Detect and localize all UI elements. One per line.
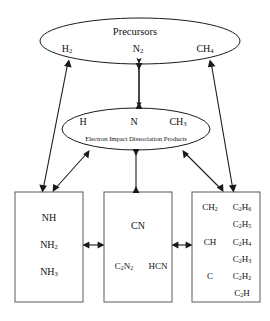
hydrocarbon-species-c2h: C2H (224, 289, 260, 299)
hydrocarbon-species-c2h2: C2H2 (224, 272, 260, 282)
amine-nh3-formula: NH (40, 266, 54, 277)
cyanide-species-c2n2: C2N2 (104, 262, 144, 272)
precursor-ch4-sub: 4 (210, 47, 213, 54)
hydrocarbon-c2h3-sub2: 3 (248, 258, 251, 264)
amine-nh2-formula: NH (40, 239, 54, 250)
dissociation-ch3-formula: CH (169, 116, 183, 127)
dissociation-n-formula: N (130, 116, 137, 127)
diagram-root: Precursors H2 N2 CH4 H N CH3 Electron Im… (0, 0, 270, 321)
hydrocarbon-ch-formula: CH (204, 237, 217, 247)
hydrocarbon-c2h5-sub2: 5 (248, 223, 251, 229)
hydrocarbon-c2h-formula2: H (243, 288, 250, 298)
amine-nh2-sub: 2 (55, 243, 58, 250)
cyanide-c2n2-sub2: 2 (130, 265, 133, 271)
precursor-h2-sub: 2 (69, 47, 72, 54)
amine-nh3-sub: 3 (55, 270, 58, 277)
dissociation-species-n: N (119, 117, 149, 128)
hydrocarbon-c2h4-sub2: 4 (248, 241, 251, 247)
hydrocarbon-ch2-formula: CH (202, 202, 215, 212)
precursors-ellipse-shape (40, 18, 240, 64)
hydrocarbon-species-ch: CH (192, 238, 228, 248)
hydrocarbon-ch2-sub: 2 (215, 206, 218, 212)
dissociation-species-ch3: CH3 (160, 117, 196, 128)
cyanide-species-hcn: HCN (140, 262, 176, 272)
precursor-n2-sub: 2 (140, 47, 143, 54)
hydrocarbon-species-c2h5: C2H5 (224, 220, 260, 230)
hydrocarbon-species-c: C (192, 272, 228, 282)
hydrocarbon-c2h6-sub2: 6 (248, 206, 251, 212)
precursor-species-ch4: CH4 (183, 44, 227, 55)
dissociation-ellipse-shape (62, 108, 210, 150)
amine-species-nh: NH (15, 213, 83, 224)
hydrocarbon-species-ch2: CH2 (192, 203, 228, 213)
hydrocarbon-species-c2h6: C2H6 (224, 203, 260, 213)
cyanide-box-shape (104, 192, 172, 302)
dissociation-ch3-sub: 3 (183, 120, 186, 127)
amine-species-nh3: NH3 (15, 267, 83, 278)
precursor-n2-formula: N (133, 43, 140, 54)
dissociation-species-h: H (68, 117, 98, 128)
precursors-title: Precursors (0, 27, 270, 38)
hydrocarbon-c2h2-sub2: 2 (248, 275, 251, 281)
cyanide-cn-formula: CN (131, 220, 145, 231)
cyanide-hcn-formula: HCN (148, 261, 167, 271)
precursor-ch4-formula: CH (196, 43, 210, 54)
precursor-h2-formula: H (62, 43, 69, 54)
cyanide-species-cn: CN (104, 221, 172, 232)
amine-nh-formula: NH (42, 212, 56, 223)
precursor-species-n2: N2 (118, 44, 158, 55)
dissociation-caption: Electron Impact Dissociation Products (62, 136, 210, 143)
hydrocarbon-c-formula: C (207, 271, 213, 281)
dissociation-h-formula: H (79, 116, 86, 127)
amine-species-nh2: NH2 (15, 240, 83, 251)
hydrocarbon-species-c2h3: C2H3 (224, 255, 260, 265)
hydrocarbon-species-c2h4: C2H4 (224, 238, 260, 248)
precursor-species-h2: H2 (47, 44, 87, 55)
